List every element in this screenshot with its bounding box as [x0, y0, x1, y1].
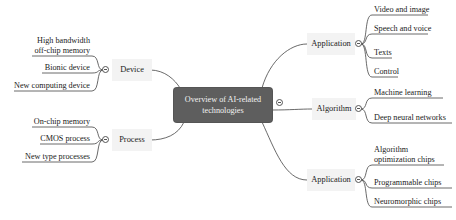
- leaf-new-type-processes[interactable]: New type processes: [10, 152, 90, 162]
- collapse-icon[interactable]: [102, 136, 109, 143]
- central-topic-line1: Overview of AI-related: [185, 94, 261, 105]
- branch-label: Algorithm: [317, 104, 352, 113]
- leaf-video-image[interactable]: Video and image: [374, 5, 429, 15]
- collapse-icon[interactable]: [355, 176, 362, 183]
- branch-application-bottom[interactable]: Application: [307, 169, 355, 191]
- branch-label: Process: [119, 135, 145, 144]
- branch-label: Application: [311, 175, 351, 184]
- branch-label: Device: [120, 65, 144, 74]
- branch-label: Application: [311, 39, 351, 48]
- leaf-line1: Algorithm: [374, 145, 435, 155]
- leaf-neuromorphic-chips[interactable]: Neuromorphic chips: [374, 197, 441, 207]
- central-topic-line2: technologies: [185, 105, 261, 116]
- link-center-application-bottom: [262, 122, 307, 180]
- leaf-algorithm-optimization-chips[interactable]: Algorithm optimization chips: [374, 145, 435, 165]
- link-center-device: [150, 70, 180, 88]
- branch-device[interactable]: Device: [112, 59, 152, 81]
- link-center-application-top: [262, 44, 307, 88]
- leaf-new-computing-device[interactable]: New computing device: [10, 81, 90, 91]
- leaf-line2: off-chip memory: [30, 46, 90, 56]
- link-center-algorithm: [272, 109, 312, 110]
- leaf-programmable-chips[interactable]: Programmable chips: [374, 178, 442, 188]
- leaf-deep-neural-networks[interactable]: Deep neural networks: [374, 113, 446, 123]
- link-center-process: [150, 122, 184, 140]
- leaf-control[interactable]: Control: [374, 67, 399, 77]
- collapse-icon[interactable]: [276, 99, 283, 106]
- leaf-cmos-process[interactable]: CMOS process: [20, 134, 90, 144]
- branch-algorithm[interactable]: Algorithm: [312, 98, 356, 120]
- collapse-icon[interactable]: [355, 105, 362, 112]
- leaf-line1: High bandwidth: [30, 36, 90, 46]
- branch-process[interactable]: Process: [112, 129, 152, 151]
- leaf-bionic-device[interactable]: Bionic device: [30, 63, 90, 73]
- central-topic[interactable]: Overview of AI-related technologies: [174, 88, 272, 122]
- leaf-line2: optimization chips: [374, 155, 435, 165]
- leaf-high-bandwidth-memory[interactable]: High bandwidth off-chip memory: [30, 36, 90, 56]
- branch-application-top[interactable]: Application: [307, 33, 355, 55]
- leaf-machine-learning[interactable]: Machine learning: [374, 88, 432, 98]
- collapse-icon[interactable]: [102, 66, 109, 73]
- leaf-texts[interactable]: Texts: [374, 48, 392, 58]
- leaf-on-chip-memory[interactable]: On-chip memory: [20, 117, 90, 127]
- collapse-icon[interactable]: [355, 40, 362, 47]
- leaf-speech-voice[interactable]: Speech and voice: [374, 24, 431, 34]
